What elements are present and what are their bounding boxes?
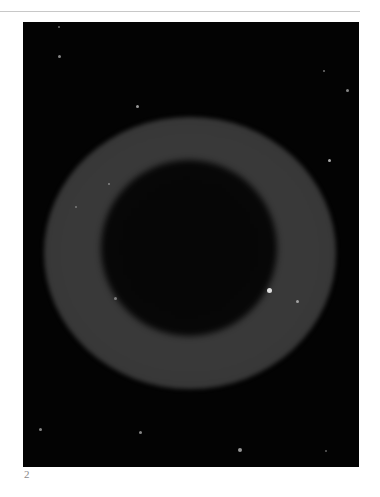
star xyxy=(323,70,325,72)
star xyxy=(58,55,61,58)
star xyxy=(346,89,349,92)
star xyxy=(75,206,77,208)
star xyxy=(325,450,327,452)
nebula-dark-center xyxy=(101,160,277,336)
star xyxy=(267,288,272,293)
star xyxy=(136,105,139,108)
nebula-photo xyxy=(23,22,359,467)
star xyxy=(58,26,60,28)
star xyxy=(296,300,299,303)
star xyxy=(108,183,110,185)
figure-label: 2 xyxy=(24,468,30,480)
star xyxy=(39,428,42,431)
star xyxy=(238,448,242,452)
top-divider xyxy=(0,11,360,12)
star xyxy=(114,297,117,300)
star xyxy=(139,431,142,434)
star xyxy=(328,159,331,162)
